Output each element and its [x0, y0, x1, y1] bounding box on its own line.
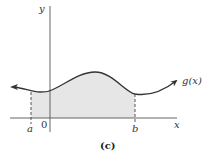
- integral-area-diagram: y g(x) a 0 b x (c): [0, 0, 204, 156]
- function-label: g(x): [182, 75, 202, 86]
- y-axis-label: y: [38, 3, 45, 14]
- figure-caption: (c): [100, 140, 116, 151]
- x-axis-label: x: [174, 119, 180, 130]
- origin-label: 0: [41, 119, 47, 130]
- upper-bound-label: b: [132, 123, 138, 134]
- lower-bound-label: a: [27, 123, 33, 134]
- shaded-area-region: [31, 72, 135, 118]
